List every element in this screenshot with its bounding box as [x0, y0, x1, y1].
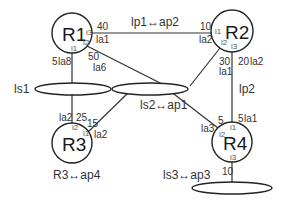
link-lp2-label: lp2	[239, 82, 255, 96]
router-r2-label: R2	[225, 22, 249, 43]
r4-ls2-cost: 5	[218, 115, 224, 126]
r3-iface-i2: i2	[72, 123, 79, 132]
lp2-r2-cost: 20	[238, 56, 250, 67]
r1-iface-i2: i2	[83, 38, 90, 47]
r1-ls2-cost: 50	[88, 51, 100, 62]
r1-iface-i3: i3	[86, 28, 93, 37]
r3-caption: R3↔ap4	[53, 168, 101, 182]
link-lp1-label: lp1↔ap2	[131, 15, 179, 29]
router-r4-label: R4	[223, 133, 248, 154]
r4-iface-i2: i2	[219, 130, 226, 139]
lp2-r4-area: la1	[244, 113, 258, 124]
r2-iface-i2: i2	[221, 38, 228, 47]
segment-ls1[interactable]	[35, 83, 111, 95]
r1-ls2-area: la6	[93, 62, 107, 73]
r4-iface-i1: i1	[230, 123, 237, 132]
segment-ls2-label: ls2↔ap1	[140, 98, 188, 112]
r1-iface-i1: i1	[71, 44, 78, 53]
r4-ls2-area: la3	[201, 123, 215, 134]
link-r2-ls2	[190, 48, 220, 86]
r3-ls1-cost: 25	[76, 112, 88, 123]
r4-iface-i3: i3	[230, 153, 237, 162]
r2-iface-i3: i3	[231, 42, 238, 51]
r3-iface-i1: i1	[83, 129, 90, 138]
lp1-r2-cost: 10	[200, 21, 212, 32]
network-diagram: R1 R2 R3 R4 i3 i2 i1 i1 i2 i3 i2 i1 i1 i…	[0, 0, 287, 209]
r3-ls2-cost: 15	[87, 118, 99, 129]
r3-ls1-area: la2	[59, 112, 73, 123]
r4-ls3-cost: 10	[222, 166, 234, 177]
segment-ls1-label: ls1	[14, 82, 30, 96]
lp1-r1-area: la1	[96, 34, 110, 45]
segment-ls2[interactable]	[112, 83, 188, 95]
r1-ls1-area: la8	[58, 56, 72, 67]
r2-ls2-area: la1	[219, 66, 233, 77]
r2-iface-i1: i1	[215, 27, 222, 36]
lp1-r1-cost: 40	[97, 21, 109, 32]
segment-ls3[interactable]	[192, 182, 272, 194]
r3-ls2-area: la2	[94, 129, 108, 140]
lp2-r2-area: la2	[250, 56, 264, 67]
segment-ls3-label: ls3↔ap3	[163, 168, 211, 182]
lp1-r2-area: la2	[199, 34, 213, 45]
